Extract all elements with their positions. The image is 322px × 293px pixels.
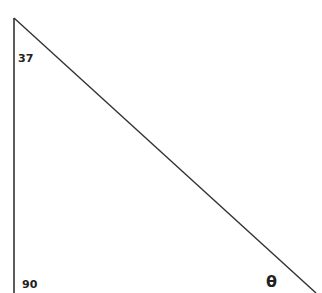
hypotenuse bbox=[14, 18, 316, 293]
theta-angle-label: θ bbox=[266, 272, 277, 291]
right-angle-label: 90 bbox=[22, 278, 37, 291]
top-angle-label: 37 bbox=[18, 52, 33, 65]
triangle-diagram bbox=[0, 0, 322, 293]
